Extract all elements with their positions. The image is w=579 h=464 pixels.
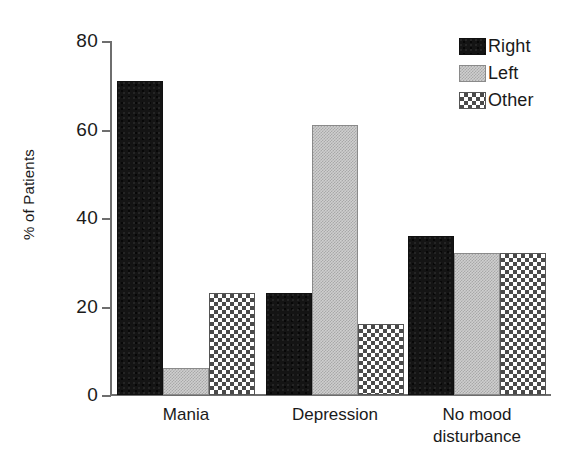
y-tick-label: 0 xyxy=(87,384,98,406)
bar-left-group-1 xyxy=(163,368,209,395)
y-tick-label: 60 xyxy=(76,119,98,141)
bar-right-group-2 xyxy=(266,293,312,395)
chart-legend: Right Left Other xyxy=(459,33,579,114)
bar-other-group-1 xyxy=(209,293,255,395)
y-tick-label: 40 xyxy=(76,207,98,229)
bar-left-group-2 xyxy=(312,125,358,395)
bar-chart: % of Patients 806040200 ManiaDepressionN… xyxy=(0,0,579,464)
bar-left-group-3 xyxy=(454,253,500,395)
legend-swatch-left-icon xyxy=(459,65,486,82)
bar-other-group-3 xyxy=(500,253,546,395)
bar-right-group-3 xyxy=(408,236,454,395)
legend-label-other: Other xyxy=(488,90,534,111)
y-tick-label: 20 xyxy=(76,296,98,318)
legend-item-right: Right xyxy=(459,33,579,60)
y-tick-mark xyxy=(102,218,111,220)
legend-label-left: Left xyxy=(488,63,518,84)
x-axis-label-group-3: No mood disturbance xyxy=(387,404,567,448)
y-tick-mark xyxy=(102,395,111,397)
bar-other-group-2 xyxy=(358,324,404,395)
y-tick-label: 80 xyxy=(76,30,98,52)
legend-item-left: Left xyxy=(459,60,579,87)
legend-item-other: Other xyxy=(459,87,579,114)
legend-swatch-other-icon xyxy=(459,92,486,109)
legend-label-right: Right xyxy=(488,36,531,57)
y-axis-title: % of Patients xyxy=(20,115,37,275)
legend-swatch-right-icon xyxy=(459,38,486,55)
y-tick-mark xyxy=(102,41,111,43)
y-tick-mark xyxy=(102,307,111,309)
y-tick-mark xyxy=(102,130,111,132)
bar-right-group-1 xyxy=(117,81,163,395)
